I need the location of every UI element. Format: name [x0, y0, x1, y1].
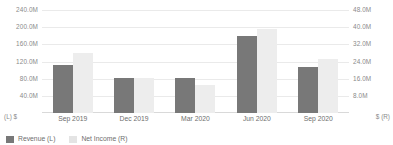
- bar-revenue-dec-2019: [114, 78, 134, 113]
- bar-groups: [42, 10, 349, 113]
- left-tick-40m: 40.0M: [2, 93, 38, 99]
- legend-label-revenue: Revenue (L): [18, 136, 55, 143]
- right-tick-40m: 40.0M: [353, 24, 391, 30]
- bar-netincome-dec-2019: [134, 78, 154, 113]
- left-axis-unit-label: (L) $: [4, 114, 17, 120]
- left-tick-120m: 120.0M: [2, 59, 38, 65]
- x-label-jun-2020: Jun 2020: [229, 116, 284, 128]
- bar-revenue-jun-2020: [237, 36, 257, 113]
- bar-group-sep-2020: [291, 10, 346, 113]
- x-label-mar-2020: Mar 2020: [168, 116, 223, 128]
- legend-item-net-income[interactable]: Net Income (R): [69, 136, 127, 143]
- legend-swatch-net-income-icon: [69, 136, 77, 143]
- legend-item-revenue[interactable]: Revenue (L): [6, 136, 55, 143]
- right-tick-24m: 24.0M: [353, 59, 391, 65]
- bar-netincome-jun-2020: [257, 29, 277, 113]
- bar-netincome-sep-2019: [73, 53, 93, 113]
- plot-area: [42, 10, 349, 113]
- bar-revenue-sep-2019: [53, 65, 73, 113]
- x-label-sep-2019: Sep 2019: [45, 116, 100, 128]
- bar-netincome-sep-2020: [318, 59, 338, 113]
- left-tick-200m: 200.0M: [2, 24, 38, 30]
- legend-swatch-revenue-icon: [6, 136, 14, 143]
- bar-group-dec-2019: [106, 10, 161, 113]
- right-tick-48m: 48.0M: [353, 7, 391, 13]
- x-label-dec-2019: Dec 2019: [106, 116, 161, 128]
- left-tick-160m: 160.0M: [2, 41, 38, 47]
- legend-label-net-income: Net Income (R): [81, 136, 127, 143]
- left-tick-240m: 240.0M: [2, 7, 38, 13]
- right-tick-8m: 8.0M: [353, 93, 391, 99]
- chart-legend: Revenue (L) Net Income (R): [6, 133, 127, 145]
- x-label-sep-2020: Sep 2020: [291, 116, 346, 128]
- financial-bar-chart: 240.0M 200.0M 160.0M 120.0M 80.0M 40.0M …: [0, 0, 393, 145]
- bar-group-jun-2020: [229, 10, 284, 113]
- bar-group-sep-2019: [45, 10, 100, 113]
- bar-netincome-mar-2020: [195, 85, 215, 113]
- right-tick-16m: 16.0M: [353, 76, 391, 82]
- bar-revenue-sep-2020: [298, 67, 318, 113]
- left-tick-80m: 80.0M: [2, 76, 38, 82]
- bar-revenue-mar-2020: [175, 78, 195, 113]
- x-axis-labels: Sep 2019 Dec 2019 Mar 2020 Jun 2020 Sep …: [42, 116, 349, 128]
- right-axis-unit-label: $ (R): [376, 114, 390, 120]
- bar-group-mar-2020: [168, 10, 223, 113]
- right-tick-32m: 32.0M: [353, 41, 391, 47]
